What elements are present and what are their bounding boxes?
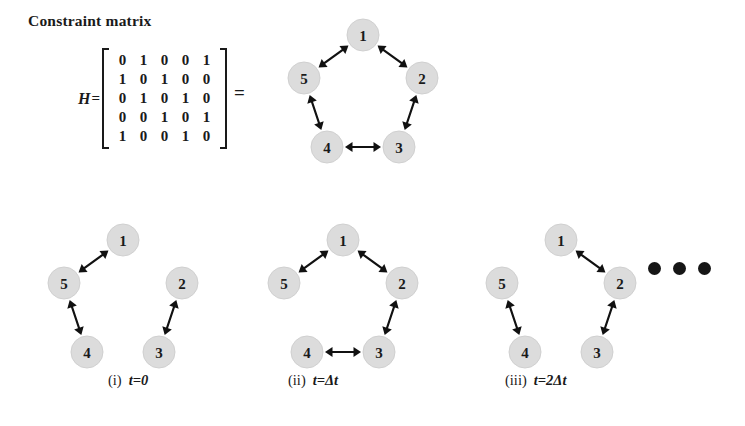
graph-svg-graph-t0: 12345: [40, 222, 210, 374]
edge-1-2: [358, 251, 388, 273]
matrix-cell: 1: [196, 108, 217, 127]
graph-node-3: 3: [363, 336, 395, 368]
matrix-equals-sign: =: [91, 91, 100, 106]
graph-node-label: 3: [593, 345, 601, 361]
graph-node-label: 5: [60, 276, 68, 292]
graph-svg-graph-t-2delta: 12345: [478, 222, 648, 374]
graph-node-4: 4: [291, 336, 323, 368]
graph-node-4: 4: [71, 336, 103, 368]
graph-node-label: 2: [418, 71, 426, 87]
graph-panel-t-2delta: 12345: [478, 222, 648, 374]
graph-node-label: 5: [280, 276, 288, 292]
matrix-cell: 0: [196, 127, 217, 146]
graph-node-label: 3: [395, 140, 403, 156]
graph-node-label: 3: [155, 345, 163, 361]
constraint-matrix-equation: H = 0100110100010100010110010: [78, 48, 227, 149]
graph-node-label: 2: [178, 276, 186, 292]
graph-node-1: 1: [545, 224, 577, 256]
graph-node-3: 3: [143, 336, 175, 368]
matrix-cell: 1: [154, 70, 175, 89]
graph-svg-full-constraint-graph: 12345: [280, 17, 450, 169]
graph-node-2: 2: [406, 62, 438, 94]
matrix-cell: 0: [196, 70, 217, 89]
matrix-grid: 0100110100010100010110010: [109, 48, 220, 149]
ellipsis-dot: [698, 262, 711, 275]
matrix-cell: 1: [175, 89, 196, 108]
figure-root: Constraint matrix H = 010011010001010001…: [0, 0, 745, 426]
matrix-cell: 1: [112, 70, 133, 89]
graph-node-label: 2: [398, 276, 406, 292]
edge-1-5: [319, 46, 349, 68]
edge-2-3: [162, 300, 178, 335]
matrix-cell: 0: [133, 108, 154, 127]
matrix-cell: 0: [154, 51, 175, 70]
caption-time-i: t=0: [129, 372, 149, 388]
graph-node-3: 3: [581, 336, 613, 368]
caption-time-ii: t=Δt: [313, 372, 338, 388]
matrix-cell: 1: [133, 89, 154, 108]
caption-index-iii: (iii): [505, 372, 527, 388]
matrix-cell: 1: [112, 127, 133, 146]
matrix-bracket-left: [102, 48, 109, 149]
sequence-continues-ellipsis: [648, 262, 711, 275]
matrix-cell: 0: [175, 51, 196, 70]
graph-panel-full-constraint: 12345: [280, 17, 450, 169]
edge-4-5: [67, 300, 83, 335]
matrix-cell: 0: [112, 89, 133, 108]
matrix-cell: 0: [133, 127, 154, 146]
graph-svg-graph-t-delta: 12345: [260, 222, 430, 374]
graph-node-label: 4: [303, 345, 311, 361]
edge-4-5: [505, 300, 521, 335]
graph-node-1: 1: [327, 224, 359, 256]
edge-3-4: [345, 142, 381, 152]
caption-index-ii: (ii): [288, 372, 306, 388]
graph-node-4: 4: [311, 131, 343, 163]
graph-node-label: 4: [83, 345, 91, 361]
graph-node-1: 1: [347, 19, 379, 51]
graph-node-2: 2: [604, 267, 636, 299]
matrix-cell: 0: [175, 70, 196, 89]
matrix-cell: 0: [154, 89, 175, 108]
graph-node-2: 2: [166, 267, 198, 299]
matrix-cell: 1: [175, 127, 196, 146]
graph-node-label: 2: [616, 276, 624, 292]
graph-panel-t-delta: 12345: [260, 222, 430, 374]
caption-t0: (i)t=0: [108, 372, 148, 389]
graph-node-5: 5: [48, 267, 80, 299]
edge-1-2: [378, 46, 408, 68]
matrix-cell: 0: [196, 89, 217, 108]
matrix-cell: 0: [154, 127, 175, 146]
graph-node-label: 4: [323, 140, 331, 156]
ellipsis-dot: [648, 262, 661, 275]
graph-node-4: 4: [509, 336, 541, 368]
matrix-label-h: H: [78, 91, 90, 107]
graph-node-label: 4: [521, 345, 529, 361]
edge-1-2: [576, 251, 606, 273]
caption-index-i: (i): [108, 372, 122, 388]
graph-panel-t0: 12345: [40, 222, 210, 374]
graph-node-5: 5: [288, 62, 320, 94]
matrix-bracket-right: [220, 48, 227, 149]
graph-node-label: 1: [557, 233, 565, 249]
graph-node-label: 1: [119, 233, 127, 249]
caption-time-iii: t=2Δt: [534, 372, 567, 388]
graph-node-label: 1: [339, 233, 347, 249]
ellipsis-dot: [673, 262, 686, 275]
edge-2-3: [402, 95, 418, 130]
graph-node-label: 3: [375, 345, 383, 361]
matrix-cell: 1: [196, 51, 217, 70]
graph-node-label: 5: [300, 71, 308, 87]
matrix-graph-equivalence-sign: =: [234, 82, 245, 104]
graph-node-2: 2: [386, 267, 418, 299]
matrix-cell: 0: [133, 70, 154, 89]
graph-node-3: 3: [383, 131, 415, 163]
caption-t-2delta: (iii)t=2Δt: [505, 372, 566, 389]
matrix-cell: 1: [133, 51, 154, 70]
constraint-matrix-title: Constraint matrix: [28, 12, 152, 30]
edge-4-5: [307, 95, 323, 130]
edge-1-5: [299, 251, 329, 273]
edge-2-3: [600, 300, 616, 335]
caption-t-delta: (ii)t=Δt: [288, 372, 338, 389]
matrix-cell: 0: [112, 108, 133, 127]
graph-node-5: 5: [486, 267, 518, 299]
